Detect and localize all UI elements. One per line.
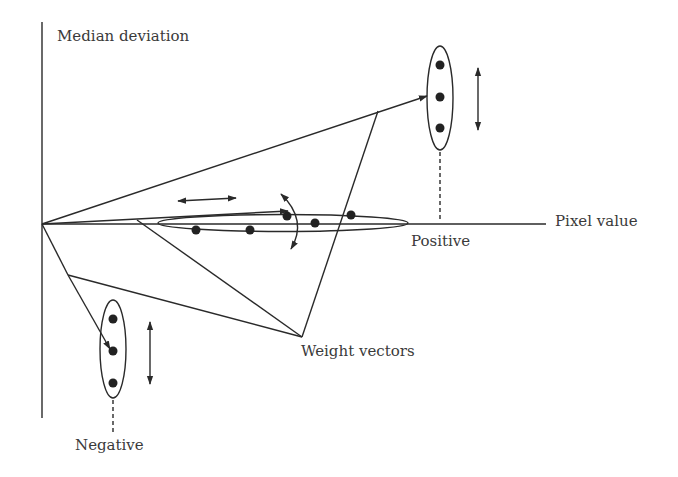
weight-vectors-label: Weight vectors [301, 344, 415, 359]
pixel-value-point [246, 226, 255, 235]
rotation-arrow [281, 194, 298, 249]
negative-point [109, 379, 118, 388]
positive-point [436, 93, 445, 102]
edge-lower-to-w [68, 275, 302, 337]
diagram-canvas: Median deviation Pixel value Positive Ne… [0, 0, 678, 477]
diagram-graphics [0, 0, 678, 477]
negative-label: Negative [75, 438, 144, 453]
vector-along-axis [42, 211, 288, 224]
edge-mid-to-w [137, 220, 302, 337]
pixel-value-point [283, 212, 292, 221]
vector-to-negative [68, 275, 110, 349]
positive-label: Positive [411, 234, 470, 249]
edge-origin-to-lower [42, 224, 68, 275]
negative-point [109, 315, 118, 324]
y-axis-label: Median deviation [57, 29, 189, 44]
positive-point [436, 124, 445, 133]
vector-to-positive [42, 96, 427, 224]
horizontal-double-arrow [178, 198, 236, 201]
positive-point [436, 61, 445, 70]
x-axis-label: Pixel value [555, 214, 638, 229]
pixel-value-point [192, 226, 201, 235]
negative-point [109, 347, 118, 356]
pixel-value-point [347, 211, 356, 220]
pixel-value-point [311, 219, 320, 228]
